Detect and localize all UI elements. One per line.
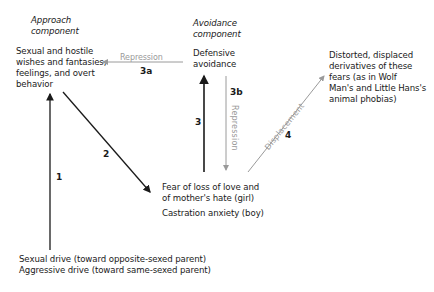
derivatives-line: Man's and Little Hans's: [329, 83, 426, 94]
drive-line: Aggressive drive (toward same-sexed pare…: [19, 265, 211, 276]
avoidance-heading-line: component: [193, 29, 241, 40]
drive-line: Sexual drive (toward opposite-sexed pare…: [19, 254, 211, 265]
approach-box-line: Sexual and hostile: [16, 46, 106, 57]
derivatives-line: derivatives of these: [329, 61, 426, 72]
approach-box: Sexual and hostile wishes and fantasies,…: [16, 46, 106, 90]
fears-line: of mother's hate (girl): [162, 193, 264, 204]
arrows-layer: [0, 0, 434, 292]
arrow-3b-label: 3b: [230, 87, 243, 97]
derivatives-line: animal phobias): [329, 94, 426, 105]
arrow-3-label: 3: [195, 117, 201, 127]
repression-3a-text: Repression: [120, 52, 163, 63]
drives-box: Sexual drive (toward opposite-sexed pare…: [19, 254, 211, 276]
derivatives-line: fears (as in Wolf: [329, 72, 426, 83]
approach-box-line: behavior: [16, 79, 106, 90]
derivatives-box: Distorted, displaced derivatives of thes…: [329, 50, 426, 105]
fears-box: Fear of loss of love and of mother's hat…: [162, 182, 264, 219]
arrow-2: [63, 92, 150, 192]
approach-box-line: feelings, and overt: [16, 68, 106, 79]
castration-anxiety: Castration anxiety (boy): [162, 208, 264, 219]
avoidance-box-line: avoidance: [193, 59, 236, 70]
avoidance-heading-line: Avoidance: [193, 18, 241, 29]
approach-heading-line: Approach: [31, 15, 79, 26]
derivatives-line: Distorted, displaced: [329, 50, 426, 61]
fears-line: Fear of loss of love and: [162, 182, 264, 193]
approach-heading: Approach component: [31, 15, 79, 37]
approach-heading-line: component: [31, 26, 79, 37]
arrow-1-label: 1: [56, 172, 62, 182]
arrow-3a-label: 3a: [140, 66, 152, 76]
avoidance-heading: Avoidance component: [193, 18, 241, 40]
arrow-2-label: 2: [103, 149, 109, 159]
approach-box-line: wishes and fantasies,: [16, 57, 106, 68]
repression-3b-text: Repression: [230, 105, 239, 151]
avoidance-box: Defensive avoidance: [193, 48, 236, 70]
avoidance-box-line: Defensive: [193, 48, 236, 59]
